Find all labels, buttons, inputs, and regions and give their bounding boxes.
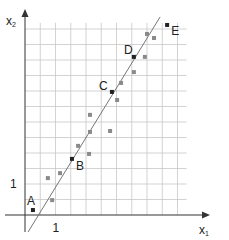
point-label-d: D [124,43,133,57]
data-point [143,55,147,59]
labeled-point-e [165,23,169,27]
data-point [76,144,80,148]
labeled-point-b [70,157,74,161]
y-axis-label-subscript: 2 [12,21,16,28]
labeled-point-a [31,208,35,212]
data-point [50,198,54,202]
data-point [46,176,50,180]
x-axis-label: x1 [199,223,209,237]
point-label-e: E [171,24,179,38]
grid [25,23,187,215]
data-point [115,98,119,102]
y-axis-arrow-icon [22,9,29,17]
data-point [152,36,156,40]
x-axis-label-subscript: 1 [205,230,209,237]
x-tick-label: 1 [53,221,60,235]
data-point [145,32,149,36]
data-point [88,130,92,134]
axes [5,9,210,232]
data-point [87,152,91,156]
x-axis-arrow-icon [202,212,210,219]
data-point [119,81,123,85]
point-label-b: B [76,159,84,173]
y-axis-label: x2 [6,14,16,28]
scatter-chart: x1x211ABCDE [0,0,229,240]
labels: x1x211ABCDE [6,14,209,237]
point-label-c: C [99,79,108,93]
labeled-point-c [110,90,114,94]
data-point [132,70,136,74]
y-tick-label: 1 [10,177,17,191]
point-label-a: A [27,194,35,208]
data-point [88,113,92,117]
data-point [58,171,62,175]
data-point [108,129,112,133]
